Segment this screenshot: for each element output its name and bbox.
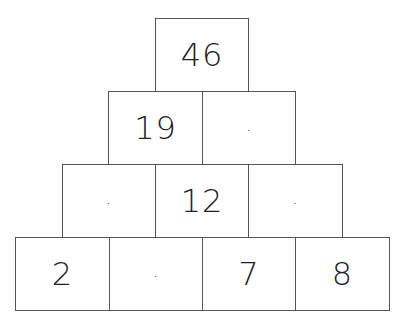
pyramid-cell-r3-c0: 2 xyxy=(15,237,110,311)
pyramid-cell-r3-c3: 8 xyxy=(295,237,390,311)
pyramid-cell-r3-c2: 7 xyxy=(202,237,296,311)
pyramid-cell-r0-c0: 46 xyxy=(155,18,249,92)
pyramid-cell-r2-c0[interactable]: · xyxy=(62,164,156,238)
pyramid-cell-r2-c2[interactable]: · xyxy=(248,164,343,238)
pyramid-cell-r1-c1[interactable]: · xyxy=(202,91,296,165)
pyramid-cell-r2-c1: 12 xyxy=(155,164,249,238)
pyramid-cell-r3-c1[interactable]: · xyxy=(109,237,203,311)
pyramid-cell-r1-c0: 19 xyxy=(108,91,203,165)
